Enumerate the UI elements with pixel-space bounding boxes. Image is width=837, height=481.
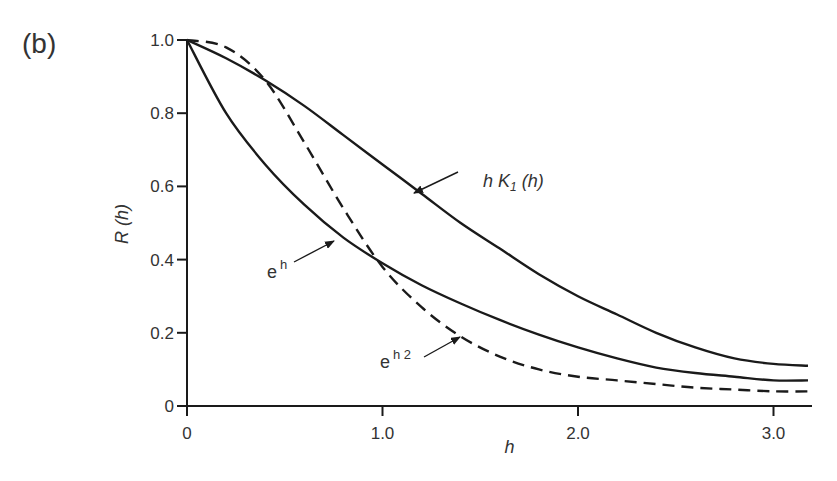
y-axis-label: R (h) [112,204,132,244]
y-tick-label: 0.8 [150,104,174,123]
annotation-arrow [294,241,334,262]
x-tick-label: 2.0 [566,424,590,443]
annotations: h K1 (h)eheh 2 [267,171,544,372]
annotation-label: eh 2 [380,347,411,372]
series-line-e-h [187,40,808,381]
y-tick-label: 1.0 [150,31,174,50]
annotation-arrow [424,337,460,357]
x-tick-label: 3.0 [762,424,786,443]
x-axis-label: h [505,437,515,457]
x-tick-label: 1.0 [371,424,395,443]
y-tick-label: 0.6 [150,177,174,196]
x-tick-label: 0 [182,424,191,443]
annotation-label: eh [267,257,287,282]
y-tick-label: 0 [165,397,174,416]
annotation-label: h K1 (h) [483,171,544,194]
y-tick-label: 0.2 [150,324,174,343]
y-tick-label: 0.4 [150,251,174,270]
series-group [187,40,808,391]
chart: 00.20.40.60.81.001.02.03.0hR (h) h K1 (h… [0,0,837,481]
series-line-e-h2 [187,40,808,391]
axes: 00.20.40.60.81.001.02.03.0hR (h) [112,31,812,457]
series-line-h-k1-h- [187,40,808,366]
annotation-arrow [414,172,458,193]
